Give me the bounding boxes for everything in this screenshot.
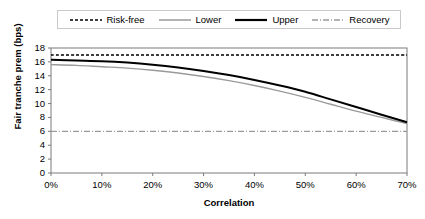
y-tick-label-6: 12	[25, 85, 45, 95]
x-tick-label-7: 70%	[387, 180, 425, 190]
y-tick-label-9: 18	[25, 43, 45, 53]
x-tick-label-3: 30%	[184, 180, 224, 190]
y-tick-label-5: 10	[25, 99, 45, 109]
x-axis-title: Correlation	[51, 197, 407, 208]
x-tick-label-4: 40%	[234, 180, 274, 190]
y-tick-label-8: 16	[25, 57, 45, 67]
y-tick-label-2: 4	[25, 140, 45, 150]
y-tick-label-3: 6	[25, 126, 45, 136]
x-tick-label-1: 10%	[82, 180, 122, 190]
y-tick-label-0: 0	[25, 168, 45, 178]
x-tick-label-2: 20%	[133, 180, 173, 190]
chart-figure: Risk-free Lower Upper Recovery Fair tran…	[0, 0, 425, 219]
x-tick-label-0: 0%	[31, 180, 71, 190]
x-tick-label-6: 60%	[336, 180, 376, 190]
y-tick-label-4: 8	[25, 112, 45, 122]
y-axis-title: Fair tranche prem (bps)	[12, 11, 23, 143]
plot-area-wrapper: Fair tranche prem (bps) Correlation 0246…	[0, 0, 425, 219]
y-tick-label-1: 2	[25, 154, 45, 164]
y-tick-label-7: 14	[25, 71, 45, 81]
x-tick-label-5: 50%	[285, 180, 325, 190]
